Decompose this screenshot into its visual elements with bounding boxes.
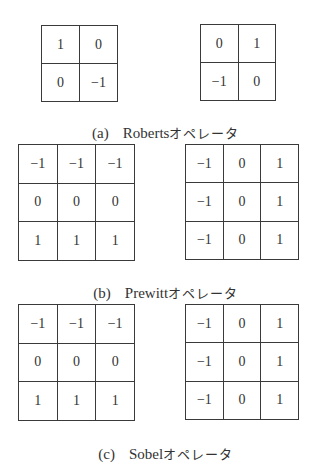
caption-name: Prewitt [125, 285, 168, 301]
kernel-cell: 0 [57, 183, 96, 222]
kernel-cell: 1 [261, 343, 299, 381]
caption-suffix: オペレータ [169, 126, 239, 141]
kernel-cell: 0 [223, 381, 261, 419]
kernel-cell: 1 [19, 382, 58, 421]
kernel-cell: −1 [80, 64, 118, 102]
kernel-cell: −1 [19, 305, 58, 344]
kernel-cell: 0 [238, 63, 276, 101]
kernel-cell: 0 [42, 64, 80, 102]
kernel-cell: 0 [57, 343, 96, 382]
kernel-cell: 1 [261, 305, 299, 343]
kernel-cell: 0 [19, 343, 58, 382]
caption-label: (a) [92, 125, 109, 141]
roberts-kernel-2: 0 1 −1 0 [200, 24, 276, 101]
kernel-cell: −1 [186, 221, 224, 259]
kernel-cell: −1 [186, 183, 224, 221]
prewitt-kernel-2: −1 0 1 −1 0 1 −1 0 1 [185, 144, 299, 260]
sobel-kernel-1: −1 −1 −1 0 0 0 1 1 1 [18, 304, 135, 421]
kernel-cell: 0 [223, 183, 261, 221]
kernel-cell: −1 [96, 145, 135, 184]
sobel-kernel-2: −1 0 1 −1 0 1 −1 0 1 [185, 304, 299, 420]
kernel-cell: 1 [42, 26, 80, 64]
kernel-cell: −1 [57, 305, 96, 344]
kernel-cell: −1 [19, 145, 58, 184]
kernel-cell: 0 [223, 221, 261, 259]
kernel-cell: 0 [96, 343, 135, 382]
kernel-cell: 1 [261, 381, 299, 419]
kernel-cell: 1 [261, 183, 299, 221]
prewitt-kernel-1: −1 −1 −1 0 0 0 1 1 1 [18, 144, 135, 261]
kernel-cell: −1 [96, 305, 135, 344]
caption-suffix: オペレータ [168, 286, 238, 301]
roberts-kernel-1: 1 0 0 −1 [41, 25, 118, 102]
kernel-cell: 1 [57, 382, 96, 421]
caption-prewitt: (b)Prewittオペレータ [0, 266, 324, 302]
kernel-cell: 0 [223, 343, 261, 381]
kernel-cell: 1 [96, 382, 135, 421]
caption-suffix: オペレータ [163, 447, 233, 462]
kernel-cell: −1 [186, 343, 224, 381]
kernel-cell: 0 [223, 305, 261, 343]
kernel-cell: 0 [223, 145, 261, 183]
kernel-cell: −1 [201, 63, 239, 101]
kernel-cell: −1 [57, 145, 96, 184]
kernel-cell: 0 [80, 26, 118, 64]
kernel-cell: 0 [201, 25, 239, 63]
kernel-cell: 1 [19, 222, 58, 261]
kernel-cell: 1 [57, 222, 96, 261]
kernel-cell: 1 [261, 145, 299, 183]
caption-roberts: (a)Robertsオペレータ [0, 106, 324, 142]
kernel-cell: −1 [186, 381, 224, 419]
kernel-cell: −1 [186, 145, 224, 183]
caption-name: Sobel [129, 446, 163, 462]
kernel-cell: 0 [96, 183, 135, 222]
kernel-cell: −1 [186, 305, 224, 343]
kernel-cell: 0 [19, 183, 58, 222]
caption-name: Roberts [123, 125, 170, 141]
kernel-cell: 1 [96, 222, 135, 261]
kernel-cell: 1 [261, 221, 299, 259]
caption-label: (b) [93, 285, 111, 301]
caption-label: (c) [98, 446, 115, 462]
caption-sobel: (c)Sobelオペレータ [0, 427, 324, 463]
kernel-cell: 1 [238, 25, 276, 63]
